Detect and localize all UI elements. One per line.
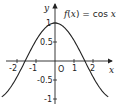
y-tick-label: -1 bbox=[44, 95, 52, 104]
function-label: f(x) = cos x bbox=[63, 9, 116, 19]
origin-label: O bbox=[58, 65, 64, 74]
x-tick-label: -2 bbox=[9, 64, 17, 73]
x-tick-label: 2 bbox=[90, 64, 95, 73]
y-tick-label: 1 bbox=[46, 19, 51, 28]
cosine-chart: -2 -1 1 2 1 0.5 -0.5 -1 O x y f(x) = cos… bbox=[0, 0, 118, 108]
x-tick-label: 1 bbox=[72, 64, 77, 73]
y-axis-label: y bbox=[43, 3, 50, 13]
y-tick-label: -0.5 bbox=[37, 76, 53, 85]
x-tick-label: -1 bbox=[29, 64, 37, 73]
y-tick-label: 0.5 bbox=[40, 38, 53, 47]
x-axis-label: x bbox=[109, 65, 114, 75]
